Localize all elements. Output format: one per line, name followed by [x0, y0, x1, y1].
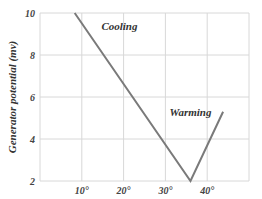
x-tick-label: 20°: [116, 185, 131, 196]
grid: [40, 13, 249, 181]
y-tick-label: 2: [29, 176, 35, 187]
annotations: CoolingWarming: [101, 20, 212, 118]
y-tick-label: 10: [25, 8, 35, 19]
x-tick-label: 30°: [157, 185, 172, 196]
y-tick-label: 4: [29, 134, 35, 145]
annotation-warming: Warming: [169, 106, 211, 118]
annotation-cooling: Cooling: [101, 20, 138, 32]
y-tick-label: 8: [30, 50, 35, 61]
y-tick-label: 6: [30, 92, 35, 103]
y-axis-label: Generator potential (mv): [6, 41, 19, 153]
generator-potential-chart: 10°20°30°40° 246810 Generator potential …: [0, 0, 262, 199]
x-tick-label: 10°: [75, 185, 89, 196]
y-axis-ticks: 246810: [25, 8, 35, 187]
x-tick-label: 40°: [199, 185, 214, 196]
x-axis-ticks: 10°20°30°40°: [75, 185, 214, 196]
